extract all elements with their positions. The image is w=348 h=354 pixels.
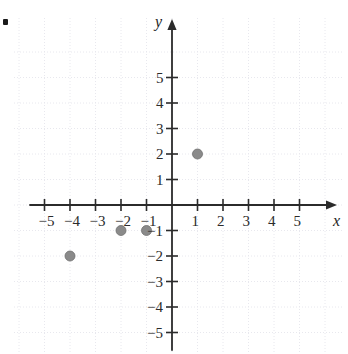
- y-axis-label: y: [155, 14, 162, 30]
- y-tick-label: −5: [147, 326, 163, 341]
- y-axis-arrowhead: [167, 19, 176, 30]
- y-tick-label: 3: [156, 122, 164, 137]
- y-tick-label: −1: [147, 224, 163, 239]
- data-point[interactable]: [65, 251, 75, 261]
- x-tick-label: −3: [90, 214, 106, 229]
- y-tick-label: 2: [156, 147, 164, 162]
- y-tick-label: −2: [147, 249, 163, 264]
- y-tick-label: −4: [147, 300, 163, 315]
- x-tick-label: −4: [64, 214, 80, 229]
- x-tick-label: 2: [217, 214, 225, 229]
- axis-lines: [30, 19, 337, 350]
- y-tick-label: 5: [156, 71, 164, 86]
- grid-lines: [14, 18, 344, 352]
- coordinate-plane-figure: x y −5−4−3−2−11234554321−1−2−3−4−5: [0, 0, 348, 354]
- x-tick-label: −5: [39, 214, 55, 229]
- x-tick-label: 5: [294, 214, 302, 229]
- x-tick-label: −2: [115, 214, 131, 229]
- data-point[interactable]: [193, 149, 203, 159]
- x-axis-arrowhead: [326, 200, 337, 209]
- y-tick-label: 1: [156, 173, 164, 188]
- coordinate-plane-canvas: [0, 0, 348, 354]
- x-axis-label: x: [333, 213, 340, 229]
- x-tick-label: 4: [268, 214, 276, 229]
- y-tick-label: −3: [147, 275, 163, 290]
- x-tick-label: 1: [192, 214, 200, 229]
- x-tick-label: 3: [243, 214, 251, 229]
- y-tick-label: 4: [156, 96, 164, 111]
